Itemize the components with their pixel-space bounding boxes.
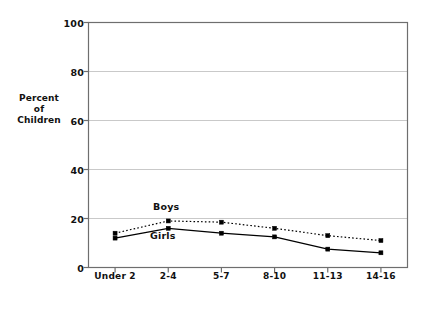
series-label-boys: Boys	[153, 201, 179, 212]
data-point-marker-boys	[273, 226, 277, 230]
data-point-marker-girls	[273, 235, 277, 239]
plot-frame	[89, 23, 408, 268]
y-axis-tick-marks	[84, 23, 89, 268]
data-point-marker-boys	[219, 220, 223, 224]
chart-figure: Percent of Children 0 20 40 60 80 100 Un…	[0, 0, 425, 314]
series-label-girls: Girls	[150, 230, 176, 241]
x-tick-label: Under 2	[94, 271, 136, 281]
plot-area	[0, 0, 425, 314]
data-point-marker-boys	[166, 219, 170, 223]
x-tick-label: 5-7	[213, 271, 230, 281]
plot-border	[89, 23, 408, 268]
data-point-marker-girls	[379, 251, 383, 255]
data-point-marker-boys	[326, 234, 330, 238]
x-tick-label: 2-4	[160, 271, 177, 281]
gridlines	[89, 72, 408, 219]
x-tick-label: 14-16	[366, 271, 396, 281]
data-point-marker-boys	[379, 239, 383, 243]
data-point-marker-boys	[113, 231, 117, 235]
x-tick-label: 8-10	[263, 271, 286, 281]
page-caption-fragment	[0, 305, 425, 314]
data-point-marker-girls	[113, 236, 117, 240]
x-tick-label: 11-13	[313, 271, 343, 281]
data-point-marker-girls	[219, 231, 223, 235]
data-point-marker-girls	[326, 247, 330, 251]
